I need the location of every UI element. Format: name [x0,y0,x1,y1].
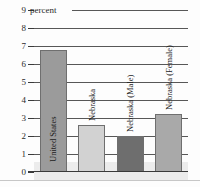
bar-3[interactable] [155,114,182,172]
plot-area: United StatesNebraskaNebraska (Male)Nebr… [34,10,188,172]
x-axis-baseline [28,171,188,172]
y-tick-label-7: 7 [14,42,26,51]
y-tick-label-8: 8 [14,24,26,33]
bar-group-3[interactable]: Nebraska (Female) [155,10,182,172]
bottom-rule [0,180,200,181]
bar-label-3: Nebraska (Female) [164,46,173,111]
y-tick-label-2: 2 [14,132,26,141]
bar-group-0[interactable]: United States [40,10,67,172]
y-tick-label-4: 4 [14,96,26,105]
y-tick-label-0: 0 [14,168,26,177]
bar-1[interactable] [78,125,105,172]
y-tick-label-6: 6 [14,60,26,69]
bar-2[interactable] [117,136,144,172]
y-tick-label-1: 1 [14,150,26,159]
bar-group-1[interactable]: Nebraska [78,10,105,172]
y-tick-label-9: 9 [14,6,26,15]
bar-label-1: Nebraska [87,89,96,121]
y-tick-label-5: 5 [14,78,26,87]
bar-label-2: Nebraska (Male) [126,75,135,132]
y-tick-label-3: 3 [14,114,26,123]
bar-0[interactable] [40,50,67,172]
bar-group-2[interactable]: Nebraska (Male) [117,10,144,172]
bar-chart: 0123456789 percent United StatesNebraska… [0,0,200,187]
